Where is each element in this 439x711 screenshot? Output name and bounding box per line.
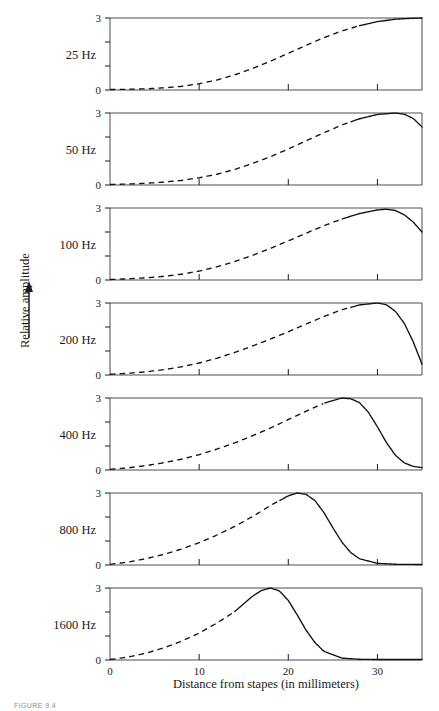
- y-tick-label-min: 0: [96, 274, 102, 286]
- y-tick-label-max: 3: [96, 582, 102, 594]
- figure-container: Relative amplitude 3025 Hz3050 Hz30100 H…: [0, 0, 439, 711]
- figure-caption: FIGURE 9.4: [14, 702, 56, 709]
- panel-frame: [110, 208, 422, 280]
- panel-frequency-label: 1600 Hz: [53, 618, 96, 632]
- y-tick-label-min: 0: [96, 369, 102, 381]
- panel-25hz: 3025 Hz: [66, 12, 422, 96]
- panel-frequency-label: 50 Hz: [66, 143, 97, 157]
- panel-frame: [110, 18, 422, 90]
- panel-50hz: 3050 Hz: [66, 107, 422, 191]
- panel-frequency-label: 800 Hz: [60, 523, 97, 537]
- panel-frame: [110, 588, 422, 660]
- wave-envelope-dashed: [110, 308, 349, 375]
- panel-frequency-label: 25 Hz: [66, 48, 97, 62]
- wave-envelope-dashed: [110, 220, 341, 280]
- wave-envelope-dashed: [110, 612, 235, 660]
- y-tick-label-max: 3: [96, 12, 102, 24]
- wave-envelope-solid: [280, 493, 422, 565]
- wave-envelope-dashed: [110, 26, 360, 90]
- x-tick-label: 30: [372, 665, 384, 677]
- x-tick-label: 10: [194, 665, 206, 677]
- panel-400hz: 30400 Hz: [60, 392, 422, 476]
- panel-frame: [110, 113, 422, 185]
- x-tick-label: 0: [107, 665, 113, 677]
- panel-frame: [110, 303, 422, 375]
- y-axis-title: Relative amplitude: [18, 253, 32, 348]
- panel-800hz: 30800 Hz: [60, 487, 422, 571]
- y-tick-label-min: 0: [96, 179, 102, 191]
- panel-frame: [110, 493, 422, 565]
- cochlea-traveling-wave-chart: Relative amplitude 3025 Hz3050 Hz30100 H…: [0, 0, 439, 711]
- panel-1600hz: 301600 Hz: [53, 582, 422, 666]
- y-tick-label-min: 0: [96, 464, 102, 476]
- wave-envelope-solid: [235, 588, 422, 659]
- panel-200hz: 30200 Hz: [60, 297, 422, 381]
- panel-frequency-label: 200 Hz: [60, 333, 97, 347]
- wave-envelope-solid: [360, 18, 422, 26]
- y-tick-label-max: 3: [96, 392, 102, 404]
- y-tick-label-min: 0: [96, 84, 102, 96]
- x-axis-title: Distance from stapes (in millimeters): [173, 677, 359, 691]
- x-tick-label: 20: [283, 665, 295, 677]
- y-tick-label-max: 3: [96, 297, 102, 309]
- wave-envelope-dashed: [110, 404, 323, 470]
- panel-100hz: 30100 Hz: [60, 202, 422, 286]
- panel-frequency-label: 100 Hz: [60, 238, 97, 252]
- y-tick-label-min: 0: [96, 654, 102, 666]
- wave-envelope-solid: [351, 303, 422, 364]
- y-tick-label-max: 3: [96, 107, 102, 119]
- y-tick-label-max: 3: [96, 202, 102, 214]
- panel-stack: 3025 Hz3050 Hz30100 Hz30200 Hz30400 Hz30…: [53, 12, 422, 666]
- wave-envelope-dashed: [110, 501, 278, 564]
- wave-envelope-solid: [351, 113, 422, 127]
- y-tick-label-max: 3: [96, 487, 102, 499]
- y-tick-label-min: 0: [96, 559, 102, 571]
- y-axis-label-group: Relative amplitude: [18, 253, 33, 348]
- x-axis-tick-labels: 0102030: [107, 665, 383, 677]
- wave-envelope-solid: [342, 209, 422, 232]
- wave-envelope-dashed: [110, 122, 349, 184]
- panel-frequency-label: 400 Hz: [60, 428, 97, 442]
- panel-frame: [110, 398, 422, 470]
- wave-envelope-solid: [325, 398, 422, 468]
